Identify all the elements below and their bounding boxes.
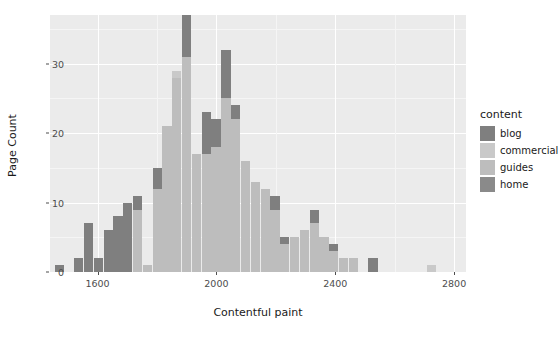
x-axis-tick-mark — [216, 272, 217, 275]
gridline-major-vertical — [98, 15, 99, 272]
histogram-bar-segment-guides — [349, 258, 358, 272]
histogram-bar — [74, 258, 83, 272]
histogram-bar — [211, 119, 220, 272]
legend-entries: blogcommercialguideshome — [480, 125, 558, 193]
histogram-bar — [319, 237, 328, 272]
histogram-bar — [290, 237, 299, 272]
histogram-bar-segment-guides — [329, 251, 338, 272]
histogram-bar-segment-blog — [84, 223, 93, 272]
x-axis-title: Contentful paint — [50, 306, 466, 319]
histogram-bar-segment-guides — [261, 189, 270, 272]
histogram-bar-segment-blog — [310, 210, 319, 224]
y-axis-title: Page Count — [2, 0, 22, 290]
gridline-minor-horizontal — [50, 29, 466, 30]
histogram-bar — [113, 216, 122, 272]
histogram-bar-segment-blog — [74, 258, 83, 272]
histogram-bar — [270, 196, 279, 272]
histogram-bar — [329, 244, 338, 272]
histogram-bar-segment-guides — [339, 258, 348, 272]
legend-item-label: blog — [500, 128, 522, 139]
plot-panel — [50, 15, 466, 272]
histogram-bar-segment-guides — [143, 265, 152, 272]
histogram-bar — [104, 230, 113, 272]
histogram-bar-segment-guides — [133, 210, 142, 273]
histogram-bar-segment-guides — [231, 119, 240, 272]
y-axis-tick-mark — [46, 63, 49, 64]
histogram-bar-segment-guides — [251, 182, 260, 272]
histogram-bar-segment-blog — [270, 196, 279, 210]
histogram-bar-segment-blog — [231, 105, 240, 119]
histogram-bar-segment-guides — [270, 210, 279, 273]
histogram-bar — [192, 154, 201, 272]
histogram-bar — [241, 161, 250, 272]
y-axis-tick-mark — [46, 202, 49, 203]
legend-item-label: guides — [500, 162, 533, 173]
histogram-bar — [310, 210, 319, 273]
histogram-bar-segment-blog — [94, 258, 103, 272]
histogram-bar-segment-guides — [211, 147, 220, 272]
y-axis-title-label: Page Count — [6, 114, 19, 177]
x-axis-tick-mark — [98, 272, 99, 275]
gridline-minor-vertical — [395, 15, 396, 272]
x-axis-tick-label: 1600 — [85, 278, 109, 289]
histogram-bar-segment-guides — [300, 230, 309, 272]
histogram-bar — [368, 258, 377, 272]
histogram-bar-segment-blog — [153, 168, 162, 189]
histogram-bar-segment-guides — [221, 98, 230, 272]
histogram-bar — [202, 112, 211, 272]
histogram-bar — [339, 258, 348, 272]
y-axis-tick-mark — [46, 272, 49, 273]
histogram-bar — [153, 168, 162, 272]
legend-item-blog[interactable]: blog — [480, 125, 558, 142]
gridline-major-horizontal — [50, 133, 466, 134]
x-axis-tick-label: 2000 — [204, 278, 228, 289]
histogram-bar-segment-blog — [221, 50, 230, 99]
histogram-bar — [261, 189, 270, 272]
histogram-bar — [231, 105, 240, 272]
legend-item-commercial[interactable]: commercial — [480, 142, 558, 159]
legend-swatch-icon — [480, 177, 495, 192]
histogram-bar-segment-blog — [202, 112, 211, 154]
histogram-bar-segment-blog — [280, 237, 289, 244]
y-axis-tick-label: 0 — [58, 267, 64, 278]
histogram-bar-segment-blog — [123, 203, 132, 272]
histogram-bar-segment-commercial — [172, 71, 181, 78]
histogram-bar-segment-blog — [329, 244, 338, 251]
legend-item-label: commercial — [500, 145, 558, 156]
legend-item-guides[interactable]: guides — [480, 159, 558, 176]
histogram-bar-segment-guides — [290, 237, 299, 272]
x-axis-tick-mark — [454, 272, 455, 275]
histogram-bar-segment-guides — [162, 126, 171, 272]
x-axis-tick-mark — [335, 272, 336, 275]
histogram-bar-segment-guides — [202, 154, 211, 272]
gridline-minor-horizontal — [50, 98, 466, 99]
histogram-bar — [172, 71, 181, 272]
legend-title: content — [480, 108, 558, 121]
histogram-bar — [251, 182, 260, 272]
histogram-bar — [427, 265, 436, 272]
histogram-bar-segment-commercial — [427, 265, 436, 272]
y-axis-tick-label: 20 — [52, 128, 64, 139]
histogram-bar — [133, 196, 142, 272]
x-axis-tick-label: 2800 — [442, 278, 466, 289]
y-axis-tick-label: 10 — [52, 197, 64, 208]
gridline-major-vertical — [335, 15, 336, 272]
histogram-bar-segment-guides — [241, 161, 250, 272]
legend-item-home[interactable]: home — [480, 176, 558, 193]
x-axis-tick-label: 2400 — [323, 278, 347, 289]
histogram-bar-segment-guides — [192, 154, 201, 272]
histogram-bar — [123, 203, 132, 272]
gridline-major-vertical — [454, 15, 455, 272]
histogram-bar-segment-guides — [182, 57, 191, 272]
x-axis-title-label: Contentful paint — [213, 306, 302, 319]
histogram-bar — [162, 126, 171, 272]
y-axis-tick-label: 30 — [52, 58, 64, 69]
histogram-bar-segment-guides — [310, 223, 319, 272]
histogram-bar — [94, 258, 103, 272]
histogram-bar — [221, 50, 230, 272]
histogram-bar — [349, 258, 358, 272]
histogram-bar-segment-blog — [211, 119, 220, 147]
legend-swatch-icon — [480, 126, 495, 141]
histogram-bar-segment-guides — [319, 237, 328, 272]
